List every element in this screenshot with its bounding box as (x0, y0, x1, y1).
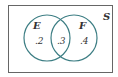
venn-diagram: S E F .2 .3 .4 (0, 0, 118, 77)
set-f-only-value: .4 (80, 36, 89, 46)
set-e-label: E (32, 20, 41, 31)
set-e-only-value: .2 (35, 36, 44, 46)
set-f-label: F (78, 20, 87, 31)
intersection-value: .3 (57, 36, 66, 46)
universe-label: S (103, 11, 110, 22)
